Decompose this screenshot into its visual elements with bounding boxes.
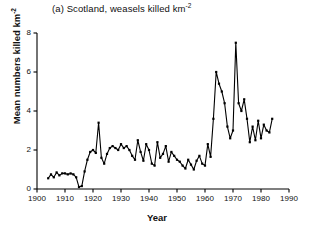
data-point bbox=[75, 176, 77, 178]
data-point bbox=[218, 83, 220, 85]
data-point bbox=[156, 141, 158, 143]
data-point bbox=[243, 98, 245, 100]
data-point bbox=[56, 171, 58, 173]
data-point bbox=[103, 163, 105, 165]
data-point bbox=[182, 165, 184, 167]
y-tick-label-6: 6 bbox=[15, 67, 31, 76]
data-point bbox=[260, 137, 262, 139]
data-point bbox=[53, 176, 55, 178]
data-point bbox=[204, 165, 206, 167]
data-point bbox=[235, 42, 237, 44]
data-point bbox=[106, 153, 108, 155]
data-point bbox=[221, 90, 223, 92]
data-point bbox=[252, 126, 254, 128]
y-tick-label-8: 8 bbox=[15, 28, 31, 37]
data-point bbox=[114, 147, 116, 149]
y-tick-label-4: 4 bbox=[15, 106, 31, 115]
data-point bbox=[224, 102, 226, 104]
data-point bbox=[72, 173, 74, 175]
axis-lines bbox=[37, 33, 289, 189]
data-point bbox=[246, 118, 248, 120]
y-tick-label-0: 0 bbox=[15, 184, 31, 193]
data-point bbox=[86, 159, 88, 161]
data-point bbox=[151, 163, 153, 165]
data-point bbox=[120, 143, 122, 145]
data-point bbox=[47, 177, 49, 179]
data-series-markers bbox=[47, 42, 273, 189]
data-point bbox=[109, 147, 111, 149]
data-point bbox=[212, 118, 214, 120]
data-point bbox=[159, 157, 161, 159]
data-point bbox=[238, 102, 240, 104]
data-point bbox=[81, 185, 83, 187]
data-point bbox=[58, 174, 60, 176]
data-point bbox=[190, 164, 192, 166]
data-point bbox=[128, 149, 130, 151]
data-point bbox=[268, 131, 270, 133]
data-point bbox=[271, 118, 273, 120]
data-point bbox=[67, 173, 69, 175]
data-point bbox=[92, 149, 94, 151]
data-point bbox=[50, 173, 52, 175]
data-point bbox=[184, 167, 186, 169]
data-point bbox=[145, 143, 147, 145]
data-point bbox=[142, 160, 144, 162]
x-tick-label-1990: 1990 bbox=[273, 194, 305, 203]
y-tick-label-2: 2 bbox=[15, 145, 31, 154]
data-point bbox=[84, 170, 86, 172]
data-point bbox=[232, 129, 234, 131]
data-point bbox=[134, 159, 136, 161]
data-point bbox=[170, 151, 172, 153]
data-point bbox=[140, 151, 142, 153]
data-point bbox=[100, 157, 102, 159]
data-point bbox=[201, 163, 203, 165]
data-point bbox=[137, 139, 139, 141]
data-point bbox=[61, 172, 63, 174]
data-point bbox=[112, 145, 114, 147]
data-point bbox=[249, 141, 251, 143]
data-point bbox=[257, 120, 259, 122]
data-point bbox=[117, 149, 119, 151]
data-point bbox=[176, 159, 178, 161]
data-point bbox=[196, 160, 198, 162]
data-point bbox=[193, 168, 195, 170]
data-point bbox=[98, 122, 100, 124]
data-point bbox=[263, 124, 265, 126]
data-point bbox=[64, 172, 66, 174]
data-point bbox=[179, 161, 181, 163]
data-point bbox=[123, 147, 125, 149]
data-point bbox=[254, 139, 256, 141]
data-point bbox=[148, 149, 150, 151]
data-point bbox=[78, 186, 80, 188]
data-point bbox=[198, 155, 200, 157]
data-point bbox=[165, 145, 167, 147]
data-point bbox=[229, 137, 231, 139]
data-point bbox=[240, 110, 242, 112]
data-point bbox=[266, 129, 268, 131]
data-point bbox=[187, 159, 189, 161]
data-point bbox=[89, 151, 91, 153]
data-series-line bbox=[48, 43, 272, 187]
data-point bbox=[131, 155, 133, 157]
data-point bbox=[215, 71, 217, 73]
data-point bbox=[154, 165, 156, 167]
data-point bbox=[70, 172, 72, 174]
data-point bbox=[207, 143, 209, 145]
data-point bbox=[173, 155, 175, 157]
data-point bbox=[210, 156, 212, 158]
data-point bbox=[162, 153, 164, 155]
data-point bbox=[226, 126, 228, 128]
data-point bbox=[126, 145, 128, 147]
data-point bbox=[168, 161, 170, 163]
data-point bbox=[95, 152, 97, 154]
chart-figure: (a) Scotland, weasels killed km-2 Mean n… bbox=[0, 0, 314, 233]
